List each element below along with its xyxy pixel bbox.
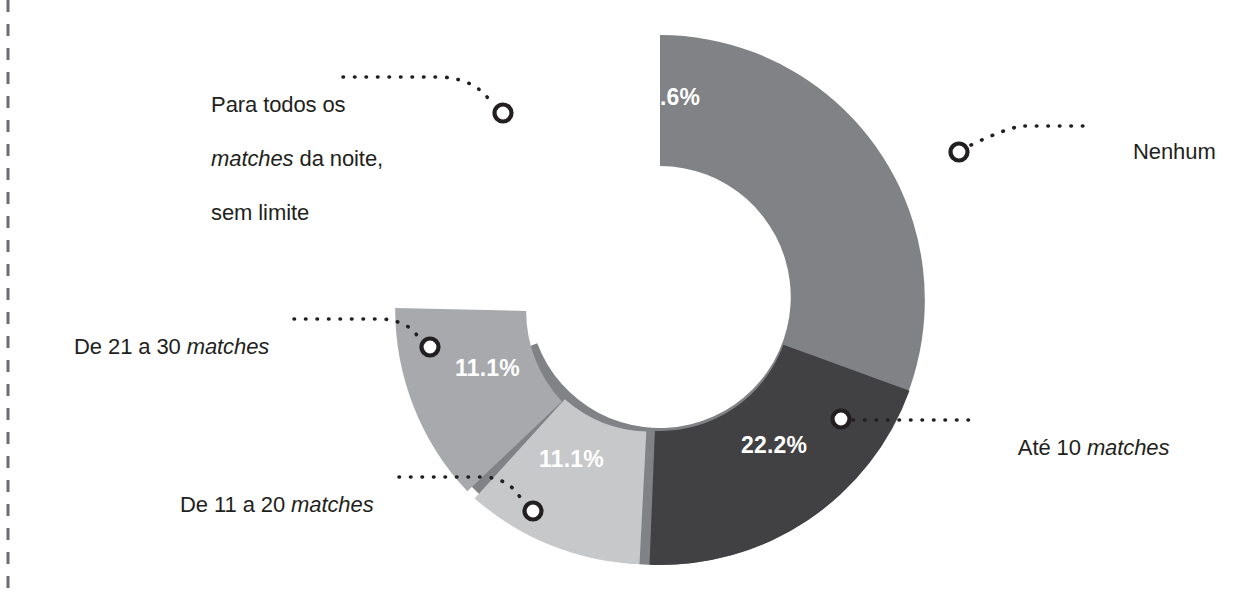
label-de11-italic: matches [291, 492, 373, 517]
label-todos-os-matches: Para todos os matches da noite, sem limi… [187, 64, 383, 253]
label-ate10-italic: matches [1087, 435, 1169, 460]
label-nenhum-text: Nenhum [1133, 139, 1216, 164]
label-de21-italic: matches [187, 334, 269, 359]
marker-todos-os-matches[interactable] [495, 105, 512, 122]
marker-de-11-a-20-matches[interactable] [525, 503, 542, 520]
marker-de-21-a-30-matches[interactable] [422, 339, 439, 356]
label-todos-line1: Para todos os [211, 92, 351, 117]
label-de21-prefix: De 21 a 30 [74, 334, 187, 359]
value-label-ate-10-matches: 22.2% [741, 432, 807, 459]
label-todos-line3: sem limite [211, 200, 309, 225]
value-label-de-21-a-30-matches: 11.1% [455, 355, 520, 382]
label-de11-prefix: De 11 a 20 [180, 492, 291, 517]
marker-nenhum[interactable] [951, 144, 968, 161]
value-label-de-11-a-20-matches: 11.1% [539, 446, 604, 473]
label-ate10-prefix: Até 10 [1018, 435, 1087, 460]
label-de-21-a-30-matches: De 21 a 30 matches [50, 306, 269, 387]
label-de-11-a-20-matches: De 11 a 20 matches [156, 464, 374, 545]
label-todos-line2-italic: matches [211, 146, 293, 171]
value-label-todos-os-matches: 55.6% [634, 84, 700, 111]
label-todos-line2-rest: da noite, [294, 146, 384, 171]
leader-line-nenhum [971, 126, 1093, 145]
label-nenhum: Nenhum [1109, 111, 1216, 192]
label-ate-10-matches: Até 10 matches [995, 407, 1169, 488]
chart-canvas: Para todos os matches da noite, sem limi… [0, 0, 1258, 591]
marker-ate-10-matches[interactable] [833, 411, 850, 428]
